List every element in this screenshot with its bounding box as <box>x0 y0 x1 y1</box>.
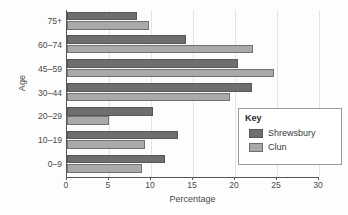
legend-item-shrewsbury: Shrewsbury <box>249 126 336 140</box>
legend-item-clun: Clun <box>249 140 336 154</box>
legend-label: Shrewsbury <box>268 128 316 138</box>
bar-group <box>67 58 319 82</box>
y-tick-label: 45–59 <box>14 64 62 74</box>
bar-clun-1019 <box>67 140 145 149</box>
legend-items: ShrewsburyClun <box>245 126 336 154</box>
legend-title: Key <box>245 113 336 123</box>
legend: Key ShrewsburyClun <box>238 108 342 165</box>
x-tick-label: 10 <box>138 180 162 190</box>
x-tick-label: 15 <box>180 180 204 190</box>
bar-chart: Age 75+60–7445–5930–4420–2910–190–9 0510… <box>0 0 348 215</box>
x-tick-label: 25 <box>264 180 288 190</box>
legend-swatch-clun <box>249 143 263 152</box>
bar-clun-09 <box>67 164 142 173</box>
bar-group <box>67 10 319 34</box>
bar-shrewsbury-3044 <box>67 83 252 92</box>
bar-shrewsbury-4559 <box>67 59 238 68</box>
bar-shrewsbury-09 <box>67 155 165 164</box>
bar-clun-2029 <box>67 116 109 125</box>
x-tick-label: 30 <box>306 180 330 190</box>
legend-swatch-shrewsbury <box>249 129 263 138</box>
y-tick-label: 30–44 <box>14 88 62 98</box>
bar-clun-6074 <box>67 45 253 54</box>
bar-shrewsbury-2029 <box>67 107 153 116</box>
bar-clun-4559 <box>67 69 274 78</box>
bar-group <box>67 82 319 106</box>
legend-label: Clun <box>268 142 287 152</box>
x-tick-label: 5 <box>96 180 120 190</box>
x-axis-title: Percentage <box>66 194 319 204</box>
bar-group <box>67 34 319 58</box>
bar-shrewsbury-6074 <box>67 35 186 44</box>
bar-shrewsbury-1019 <box>67 131 178 140</box>
y-tick-label: 10–19 <box>14 135 62 145</box>
y-tick-label: 20–29 <box>14 111 62 121</box>
y-tick-label: 60–74 <box>14 40 62 50</box>
bar-clun-3044 <box>67 93 230 102</box>
x-tick-label: 0 <box>54 180 78 190</box>
x-tick-label: 20 <box>222 180 246 190</box>
bar-clun-75+ <box>67 21 149 30</box>
bar-shrewsbury-75+ <box>67 12 137 21</box>
y-tick-label: 75+ <box>14 16 62 26</box>
y-tick-label: 0–9 <box>14 159 62 169</box>
